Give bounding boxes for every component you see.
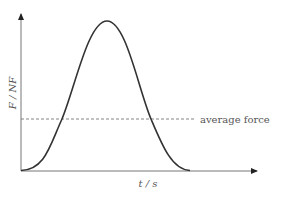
average-force-label: average force — [200, 114, 270, 125]
x-axis-label: t / s — [139, 178, 158, 189]
force-curve — [21, 21, 190, 171]
force-time-chart: F / NF t / s average force — [0, 0, 290, 198]
y-axis-label: F / NF — [7, 76, 18, 110]
